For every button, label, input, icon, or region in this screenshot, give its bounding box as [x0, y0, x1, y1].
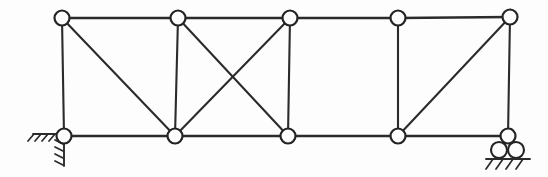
member-diagonal-panel1-T1-B2 [62, 18, 175, 136]
vertical-members-group [62, 17, 510, 136]
node-T5 [503, 10, 518, 25]
member-diagonal-panel4-B4-T5 [398, 17, 510, 136]
member-vertical-T2-B2 [175, 18, 178, 136]
member-vertical-T3-B3 [288, 18, 290, 136]
roller-circle-right [508, 142, 524, 158]
node-B2 [168, 129, 183, 144]
diagonal-members-group [62, 17, 510, 136]
roller-support [486, 142, 530, 169]
node-B4 [391, 129, 406, 144]
member-top-chord-T4-T5 [398, 17, 510, 18]
node-B1 [57, 129, 72, 144]
roller-circle-left [491, 142, 507, 158]
member-vertical-T1-B1 [62, 18, 64, 136]
truss-drawing-canvas [0, 0, 548, 177]
node-T4 [391, 11, 406, 26]
member-vertical-T5-B5 [508, 17, 510, 136]
node-T1 [55, 11, 70, 26]
truss-diagram [0, 0, 548, 177]
pin-support-hatching-left [28, 134, 55, 141]
node-T2 [171, 11, 186, 26]
node-T3 [283, 11, 298, 26]
node-B5 [501, 129, 516, 144]
node-B3 [281, 129, 296, 144]
roller-support-hatching [486, 159, 523, 169]
